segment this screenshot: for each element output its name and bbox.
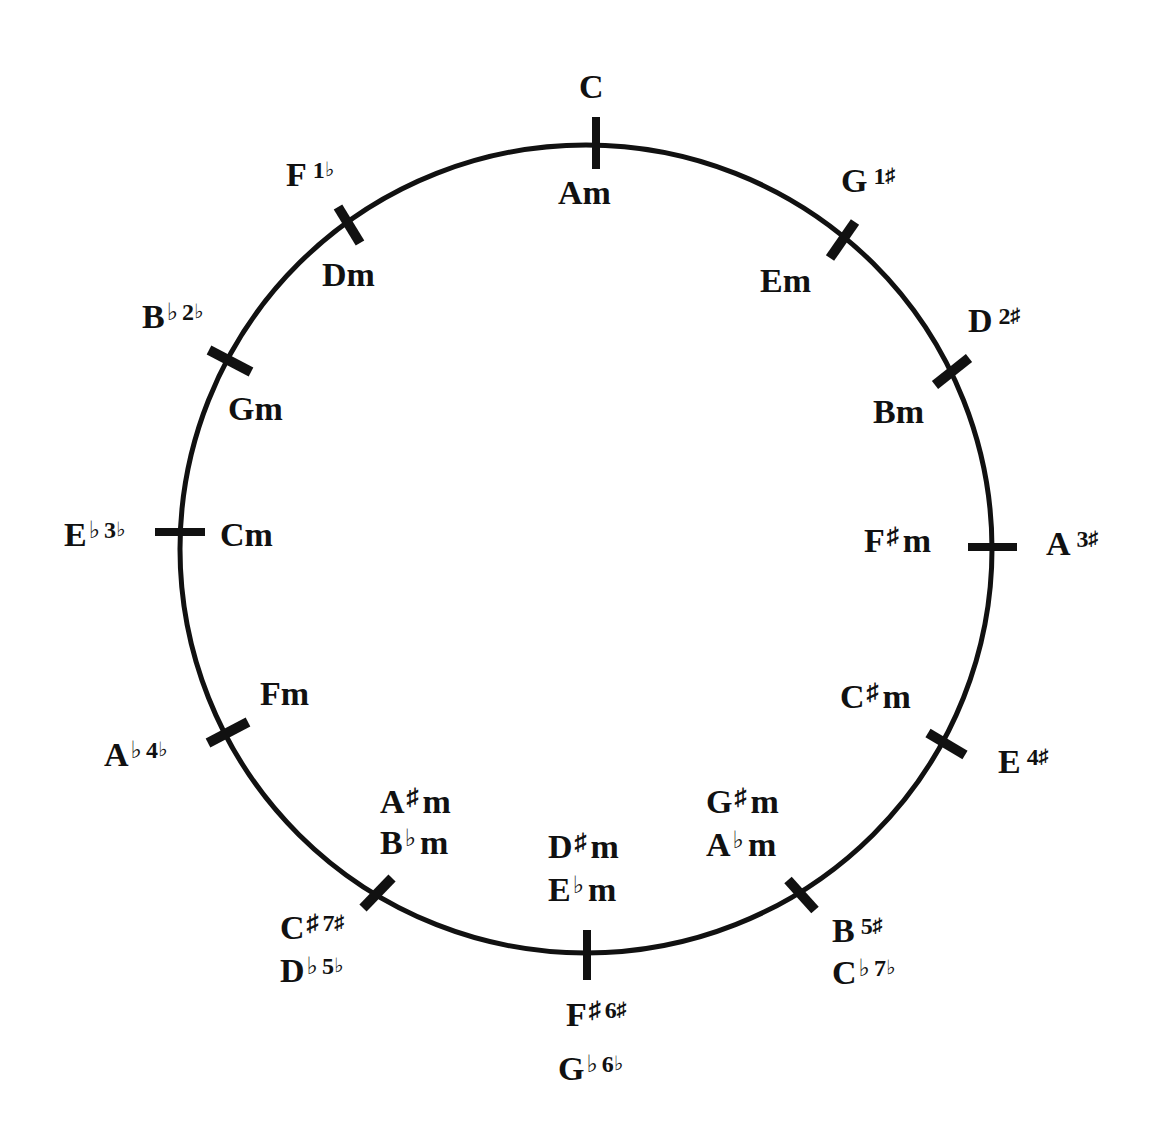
key-signature-count: 4♯: [1027, 744, 1049, 770]
label-text: C: [280, 909, 305, 946]
label-text: F: [286, 156, 307, 193]
label-suffix: m: [423, 783, 451, 820]
key-signature-count: 2♯: [999, 303, 1021, 329]
label-text: C: [579, 68, 604, 105]
flat-icon: ♭: [194, 300, 203, 322]
label-minor-gm: Gm: [228, 392, 283, 426]
label-text: G: [841, 162, 867, 199]
flat-icon: ♭: [167, 299, 178, 325]
label-major-c: C: [579, 70, 604, 104]
sharp-icon: ♯: [873, 914, 883, 936]
label-text: Cm: [220, 516, 273, 553]
label-minor-cm: Cm: [220, 518, 273, 552]
label-suffix: m: [750, 783, 778, 820]
label-minor-bm: Bm: [873, 395, 924, 429]
label-suffix: m: [748, 826, 776, 863]
key-signature-count: 2♭: [182, 299, 203, 325]
label-major-g-flat: G♭6♭: [558, 1052, 623, 1090]
label-major-d: D2♯: [968, 304, 1021, 342]
label-major-c-sharp: C♯7♯: [280, 911, 345, 949]
key-signature-count: 5♭: [322, 953, 343, 979]
label-suffix: m: [420, 824, 448, 861]
sharp-icon: ♯: [575, 829, 587, 855]
sharp-icon: ♯: [885, 164, 895, 186]
flat-icon: ♭: [733, 827, 744, 853]
flat-icon: ♭: [325, 158, 334, 180]
label-text: Fm: [260, 675, 309, 712]
key-signature-count: 6♯: [605, 997, 627, 1023]
label-major-e: E4♯: [998, 745, 1049, 783]
label-minor-a-flat-m: A♭m: [706, 828, 776, 865]
label-minor-dm: Dm: [322, 258, 375, 292]
label-major-a-flat: A♭4♭: [104, 738, 167, 776]
label-text: E: [998, 743, 1021, 780]
label-major-d-flat: D♭5♭: [280, 954, 343, 992]
flat-icon: ♭: [131, 737, 142, 763]
label-major-b: B5♯: [832, 914, 883, 952]
flat-icon: ♭: [586, 1051, 597, 1077]
key-signature-count: 1♭: [313, 157, 334, 183]
label-text: F: [566, 996, 587, 1033]
label-major-f: F1♭: [286, 158, 334, 196]
label-text: C: [832, 954, 857, 991]
flat-icon: ♭: [614, 1052, 623, 1074]
label-text: Am: [558, 174, 611, 211]
label-suffix: m: [588, 871, 616, 908]
label-suffix: m: [903, 522, 931, 559]
flat-icon: ♭: [89, 517, 100, 543]
label-minor-f-sharp-m: F♯m: [864, 524, 931, 561]
sharp-icon: ♯: [335, 911, 345, 933]
sharp-icon: ♯: [1011, 304, 1021, 326]
label-minor-e-flat-m: E♭m: [548, 873, 616, 910]
sharp-icon: ♯: [1089, 527, 1099, 549]
tick-d: [935, 358, 969, 385]
label-minor-c-sharp-m: C♯m: [840, 680, 911, 717]
key-signature-count: 3♭: [104, 517, 125, 543]
label-text: D: [968, 302, 993, 339]
sharp-icon: ♯: [617, 998, 627, 1020]
flat-icon: ♭: [573, 872, 584, 898]
sharp-icon: ♯: [1039, 745, 1049, 767]
label-text: A: [380, 783, 405, 820]
label-text: D: [280, 952, 305, 989]
label-text: E: [548, 871, 571, 908]
flat-icon: ♭: [886, 956, 895, 978]
sharp-icon: ♯: [407, 784, 419, 810]
label-text: Bm: [873, 393, 924, 430]
label-major-e-flat: E♭3♭: [64, 518, 125, 556]
label-minor-g-sharp-m: G♯m: [706, 785, 779, 822]
label-text: G: [706, 783, 732, 820]
flat-icon: ♭: [158, 738, 167, 760]
label-text: A: [1046, 525, 1071, 562]
flat-icon: ♭: [859, 955, 870, 981]
flat-icon: ♭: [307, 953, 318, 979]
sharp-icon: ♯: [867, 679, 879, 705]
label-minor-am: Am: [558, 176, 611, 210]
sharp-icon: ♯: [589, 997, 601, 1023]
label-text: E: [64, 516, 87, 553]
label-minor-em: Em: [760, 264, 811, 298]
label-text: Gm: [228, 390, 283, 427]
label-suffix: m: [591, 828, 619, 865]
label-suffix: m: [883, 678, 911, 715]
label-minor-b-flat-m: B♭m: [380, 826, 448, 863]
label-text: B: [380, 824, 403, 861]
key-signature-count: 1♯: [873, 163, 895, 189]
label-major-b-flat: B♭2♭: [142, 300, 203, 338]
label-major-g: G1♯: [841, 164, 895, 202]
label-text: A: [104, 736, 129, 773]
sharp-icon: ♯: [734, 784, 746, 810]
circle-of-fifths-diagram: [0, 0, 1171, 1134]
label-text: F: [864, 522, 885, 559]
label-text: Dm: [322, 256, 375, 293]
label-text: Em: [760, 262, 811, 299]
label-minor-fm: Fm: [260, 677, 309, 711]
key-signature-count: 6♭: [602, 1051, 623, 1077]
label-text: B: [142, 298, 165, 335]
flat-icon: ♭: [405, 825, 416, 851]
label-major-f-sharp: F♯6♯: [566, 998, 627, 1036]
label-major-a: A3♯: [1046, 527, 1099, 565]
label-text: B: [832, 912, 855, 949]
key-signature-count: 5♯: [861, 913, 883, 939]
key-signature-count: 4♭: [146, 737, 167, 763]
